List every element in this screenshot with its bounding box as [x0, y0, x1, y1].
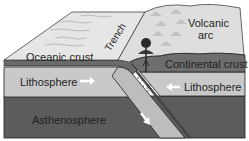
label-continental-crust: Continental crust [165, 58, 248, 70]
label-lithosphere-left: Lithosphere [20, 76, 78, 88]
label-lithosphere-right: Lithosphere [184, 81, 242, 93]
label-asthenosphere: Asthenosphere [32, 114, 106, 126]
label-arc: arc [198, 29, 214, 41]
label-volcanic: Volcanic [188, 17, 229, 29]
label-oceanic-crust: Oceanic crust [26, 51, 93, 63]
subduction-diagram: Oceanic crust Trench Volcanic arc Contin… [0, 0, 249, 141]
